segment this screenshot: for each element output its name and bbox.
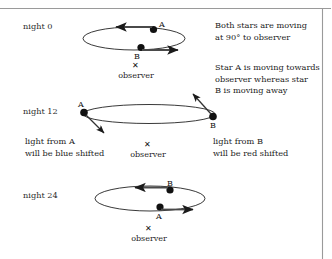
- binary-star-doppler-figure: night 0 A B Both stars are moving at 90°…: [0, 0, 332, 259]
- arrow-star-B-night-12: [193, 94, 211, 114]
- night-label-12: night 12: [23, 106, 58, 118]
- night-label-24: night 24: [23, 190, 58, 202]
- orbit-ellipse-night-12: [83, 105, 215, 124]
- note-blue-shift: light from A will be blue shifted: [25, 136, 104, 159]
- annotation-night-0: Both stars are moving at 90° to observer: [215, 20, 307, 43]
- star-label-A-night-12: A: [78, 99, 84, 111]
- orbit-ellipse-night-0: [83, 27, 185, 50]
- night-label-0: night 0: [23, 21, 53, 33]
- orbit-ellipse-night-24: [95, 186, 205, 211]
- note-red-shift: light from B will be red shifted: [213, 136, 288, 159]
- star-label-A-night-24: A: [156, 211, 162, 223]
- star-label-B-night-12: B: [210, 120, 216, 132]
- annotation-night-12: Star A is moving towards observer wherea…: [215, 62, 320, 97]
- observer-label-night-0: observer: [117, 70, 155, 82]
- arrow-star-A-night-12: [86, 115, 104, 133]
- observer-label-night-24: observer: [130, 233, 168, 245]
- star-label-B-night-24: B: [167, 178, 173, 190]
- observer-label-night-12: observer: [129, 149, 167, 161]
- star-label-A-night-0: A: [159, 19, 165, 31]
